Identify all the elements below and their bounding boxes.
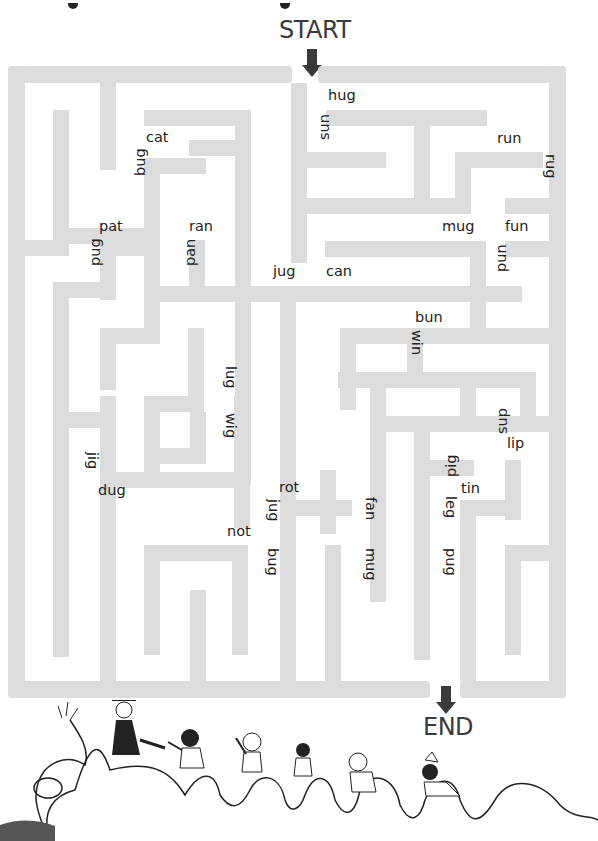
maze-word: mug [364,548,379,581]
maze-wall [100,472,116,681]
maze-wall [320,470,336,534]
maze-word: fan [364,497,379,520]
maze-worksheet: START hugsuncatbugrunrugpatpugranpanmugf… [0,0,598,841]
title-fragment-center [280,0,290,2]
maze-word: pug [444,548,459,576]
start-label: START [279,16,351,44]
maze-wall [146,286,522,302]
maze-word: not [227,524,251,539]
maze-word: jig [86,452,101,469]
maze-wall [460,500,476,681]
maze-wall [8,66,292,83]
maze-word: win [410,330,425,355]
maze-word: fun [505,219,529,234]
maze-word: rot [279,480,299,495]
maze-word: pan [183,239,198,266]
maze-word: jug [267,499,282,521]
maze-wall [414,110,430,198]
maze-wall [53,282,69,657]
rider-man-top-hat [112,700,165,755]
rider-child-2 [236,733,262,772]
maze-wall [189,140,249,156]
maze-word: sup [495,408,510,434]
maze-word: bug [266,548,281,576]
maze-wall [53,412,116,428]
maze-wall [318,66,566,83]
maze-word: rug [544,154,559,178]
maze-word: ran [189,219,213,234]
maze-wall [326,110,487,126]
maze-wall [370,416,465,432]
maze-wall [144,545,160,655]
maze-wall [53,110,69,244]
rider-child-5 [422,752,460,796]
maze-word: pug [88,238,103,266]
maze-wall [280,590,296,681]
maze-wall [325,545,341,681]
maze-word: bun [415,310,443,325]
maze-word: lip [507,436,524,451]
maze-word: sun [317,114,332,140]
maze-word: wig [224,413,239,438]
maze-wall [291,83,307,263]
maze-wall [407,328,552,344]
rider-child-3 [294,743,312,776]
maze-word: run [497,131,521,146]
maze-word: pun [494,244,509,272]
rider-child-1 [168,729,204,768]
maze-wall [460,681,566,698]
maze-wall [100,83,116,170]
maze-wall [505,241,549,257]
camel-illustration [0,700,598,841]
maze-wall [25,240,69,256]
maze-wall [291,198,462,214]
maze-word: pig [444,455,459,477]
maze-wall [455,152,471,214]
maze-word: hug [328,88,356,103]
maze-wall [340,328,356,410]
maze-word: bug [133,148,148,176]
maze-wall [8,66,25,698]
maze-word: cat [146,130,169,145]
maze-word: lug [224,366,239,388]
maze-wall [190,412,206,464]
maze-word: dug [98,483,126,498]
camel-body-outline [47,750,598,841]
maze-wall [505,198,549,214]
maze-word: jug [273,264,295,279]
maze-wall [325,241,485,257]
maze-word: leg [444,496,459,518]
maze-word: can [326,264,352,279]
maze-wall [190,590,206,681]
maze-wall [505,545,521,655]
maze-word: mug [442,219,475,234]
title-fragment-left [68,0,78,2]
rider-child-4 [349,753,376,792]
ground-shadow [0,821,55,841]
maze-wall [8,681,430,698]
maze-wall [232,545,248,655]
maze-wall [100,328,160,344]
maze-word: pat [99,219,123,234]
maze-wall [414,460,430,660]
maze-wall [144,396,204,412]
maze-word: tin [461,481,480,496]
maze-wall [235,110,251,294]
